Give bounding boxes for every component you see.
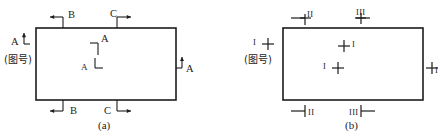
label-inner-a-lower: A (81, 63, 88, 72)
label-left-i: I (253, 38, 256, 47)
caption-a: (a) (98, 120, 110, 131)
label-bottom-c: C (104, 106, 111, 117)
label-inner-a-upper: A (101, 34, 109, 45)
label-inner-i-upper: I (352, 40, 355, 49)
label-left-a: A (11, 37, 19, 48)
label-bottom-iii: III (349, 108, 358, 117)
figure-panel-b: II III I I I I II III (图号) (b) (220, 0, 440, 139)
label-right-a: A (186, 64, 194, 75)
label-right-i: I (435, 66, 438, 75)
mark-top-c (117, 15, 131, 28)
mark-inner-i-upper (338, 40, 350, 52)
panel-b-geometry (220, 0, 440, 139)
figure-panel-a: B C A A A A B C (图号) (a) (0, 0, 220, 139)
mark-bottom-c (117, 100, 131, 113)
mark-top-b (50, 15, 63, 28)
figure-canvas: B C A A A A B C (图号) (a) (0, 0, 440, 139)
mark-left-a (22, 33, 30, 44)
label-top-iii: III (356, 8, 365, 17)
mark-right-a (176, 57, 184, 68)
label-inner-i-lower: I (323, 62, 326, 71)
label-top-b: B (68, 10, 75, 21)
label-top-ii: II (307, 10, 313, 19)
mark-inner-a-upper (90, 43, 98, 55)
label-top-c: C (110, 9, 117, 20)
tag-number-b: (图号) (244, 55, 272, 65)
mark-left-i (262, 38, 274, 50)
label-bottom-b: B (70, 106, 77, 117)
label-bottom-ii: II (308, 108, 314, 117)
mark-bottom-ii (291, 105, 305, 117)
mark-inner-i-lower (332, 62, 344, 74)
mark-bottom-iii (361, 105, 375, 117)
tag-number-a: (图号) (4, 55, 32, 65)
mark-inner-a-lower (95, 58, 103, 68)
caption-b: (b) (345, 120, 358, 131)
mark-bottom-b (50, 100, 63, 113)
